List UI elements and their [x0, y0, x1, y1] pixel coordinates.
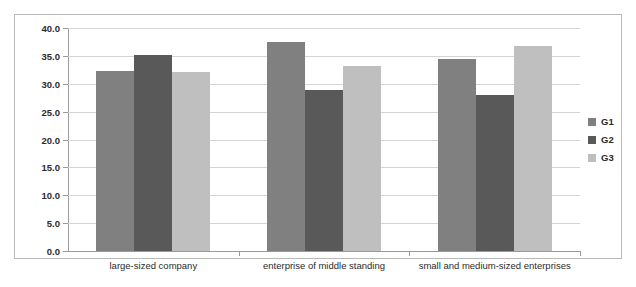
y-tick-mark	[63, 140, 68, 141]
y-tick-label: 15.0	[42, 162, 61, 173]
bar-g2-cat2	[305, 90, 343, 251]
y-tick-mark	[63, 251, 68, 252]
y-tick-mark	[63, 84, 68, 85]
chart-legend: G1G2G3	[588, 114, 614, 168]
bar-g3-cat1	[172, 72, 210, 252]
x-axis-label-cat1: large-sized company	[110, 260, 198, 271]
legend-swatch-icon	[588, 118, 596, 126]
bar-g1-cat1	[96, 71, 134, 251]
bar-g2-cat3	[476, 95, 514, 251]
y-tick-mark	[63, 195, 68, 196]
y-tick-label: 5.0	[47, 218, 60, 229]
legend-label: G1	[601, 117, 614, 127]
y-tick-label: 20.0	[42, 134, 61, 145]
y-tick-label: 35.0	[42, 50, 61, 61]
bar-g1-cat2	[267, 42, 305, 251]
gridline	[68, 251, 580, 252]
y-tick-mark	[63, 167, 68, 168]
y-tick-label: 25.0	[42, 106, 61, 117]
x-axis-label-cat2: enterprise of middle standing	[263, 260, 385, 271]
legend-label: G2	[601, 135, 614, 145]
y-tick-label: 40.0	[42, 23, 61, 34]
bar-g3-cat2	[343, 66, 381, 251]
legend-label: G3	[601, 153, 614, 163]
legend-item-g1[interactable]: G1	[588, 114, 614, 129]
category-separator	[239, 251, 240, 256]
chart-frame: 0.05.010.015.020.025.030.035.040.0 large…	[14, 14, 622, 259]
y-tick-mark	[63, 56, 68, 57]
y-tick-mark	[63, 28, 68, 29]
legend-swatch-icon	[588, 136, 596, 144]
legend-item-g3[interactable]: G3	[588, 150, 614, 165]
y-tick-label: 0.0	[47, 246, 60, 257]
category-separator	[580, 251, 581, 256]
y-tick-mark	[63, 223, 68, 224]
legend-swatch-icon	[588, 154, 596, 162]
y-tick-label: 10.0	[42, 190, 61, 201]
bar-g2-cat1	[134, 55, 172, 251]
category-separator	[409, 251, 410, 256]
y-tick-mark	[63, 112, 68, 113]
bar-g3-cat3	[514, 46, 552, 251]
plot-area: 0.05.010.015.020.025.030.035.040.0 large…	[68, 28, 580, 251]
bar-g1-cat3	[438, 59, 476, 251]
gridline	[68, 28, 580, 29]
legend-item-g2[interactable]: G2	[588, 132, 614, 147]
y-tick-label: 30.0	[42, 78, 61, 89]
x-axis-label-cat3: small and medium-sized enterprises	[419, 260, 571, 271]
